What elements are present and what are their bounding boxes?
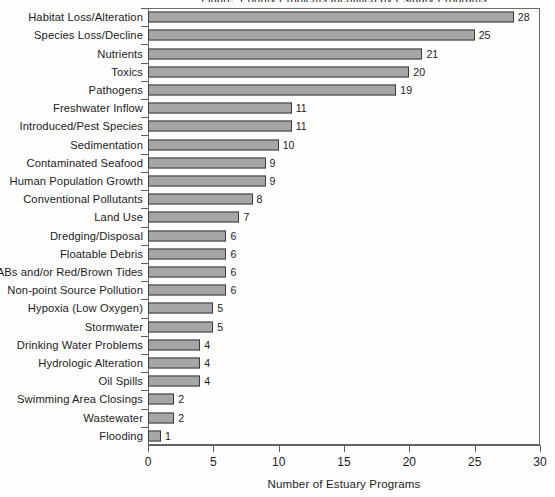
bar-row: Drinking Water Problems4	[0, 336, 555, 354]
category-label: Species Loss/Decline	[34, 29, 143, 41]
x-axis-tick	[279, 445, 280, 452]
bar	[148, 285, 226, 296]
y-axis-tick	[141, 427, 148, 428]
bar-row: Non-point Source Pollution6	[0, 281, 555, 299]
y-axis-tick	[141, 44, 148, 45]
category-label: Contaminated Seafood	[27, 157, 143, 169]
bar-value-label: 11	[296, 102, 307, 114]
x-axis-tick-label: 25	[468, 455, 481, 469]
bar	[148, 121, 292, 132]
y-axis-tick	[141, 227, 148, 228]
bar-row: Floatable Debris6	[0, 245, 555, 263]
bar-row: Land Use7	[0, 208, 555, 226]
y-axis-tick	[141, 318, 148, 319]
category-label: Conventional Pollutants	[23, 193, 143, 205]
x-axis-tick-label: 30	[533, 455, 546, 469]
y-axis-tick	[141, 390, 148, 391]
bar-value-label: 2	[178, 412, 184, 424]
bar-value-label: 20	[413, 66, 425, 78]
y-axis-tick	[141, 281, 148, 282]
category-label: Dredging/Disposal	[50, 230, 143, 242]
bar	[148, 430, 161, 441]
bar-value-label: 11	[296, 120, 307, 132]
x-axis-tick	[409, 445, 410, 452]
y-axis-tick	[141, 63, 148, 64]
y-axis-tick	[141, 336, 148, 337]
category-label: Toxics	[111, 66, 143, 78]
y-axis-tick	[141, 26, 148, 27]
category-label: Sedimentation	[70, 139, 143, 151]
bar-row: Swimming Area Closings2	[0, 390, 555, 408]
x-axis-tick	[344, 445, 345, 452]
bar	[148, 139, 279, 150]
x-axis-tick	[148, 445, 149, 452]
bar-row: Species Loss/Decline25	[0, 26, 555, 44]
category-label: Nutrients	[97, 48, 143, 60]
bar-value-label: 9	[270, 157, 276, 169]
y-axis-tick	[141, 154, 148, 155]
bar	[148, 66, 409, 77]
bar-row: Hydrologic Alteration4	[0, 354, 555, 372]
category-label: Non-point Source Pollution	[7, 284, 143, 296]
bar	[148, 157, 266, 168]
bar	[148, 376, 200, 387]
bar-row: HABs and/or Red/Brown Tides6	[0, 263, 555, 281]
bar-value-label: 9	[270, 175, 276, 187]
bar-value-label: 4	[204, 375, 210, 387]
category-label: Introduced/Pest Species	[19, 120, 143, 132]
chart-title-cropped: Figure: Priority Problems Identified by …	[148, 0, 540, 2]
bar-value-label: 25	[479, 29, 491, 41]
y-axis-tick	[141, 117, 148, 118]
bar-row: Conventional Pollutants8	[0, 190, 555, 208]
bar-value-label: 1	[165, 430, 171, 442]
bar-row: Nutrients21	[0, 44, 555, 62]
y-axis-tick	[141, 354, 148, 355]
category-label: Swimming Area Closings	[17, 393, 143, 405]
bar-row: Hypoxia (Low Oxygen)5	[0, 299, 555, 317]
bar-value-label: 7	[243, 211, 249, 223]
bar-row: Freshwater Inflow11	[0, 99, 555, 117]
bar	[148, 321, 213, 332]
category-label: Flooding	[99, 430, 143, 442]
bar	[148, 30, 475, 41]
bar-row: Human Population Growth9	[0, 172, 555, 190]
bar	[148, 358, 200, 369]
bar-rows-container: Habitat Loss/Alteration28Species Loss/De…	[0, 8, 555, 445]
bar-value-label: 10	[283, 139, 295, 151]
bar-row: Wastewater2	[0, 409, 555, 427]
category-label: Hydrologic Alteration	[38, 357, 143, 369]
bar-value-label: 2	[178, 393, 184, 405]
category-label: Oil Spills	[98, 375, 143, 387]
category-label: Floatable Debris	[60, 248, 143, 260]
y-axis-tick	[141, 263, 148, 264]
category-label: Hypoxia (Low Oxygen)	[28, 302, 143, 314]
bar-row: Pathogens19	[0, 81, 555, 99]
y-axis-tick	[141, 81, 148, 82]
bar-row: Contaminated Seafood9	[0, 154, 555, 172]
bar	[148, 194, 253, 205]
bar-row: Habitat Loss/Alteration28	[0, 8, 555, 26]
y-axis-tick	[141, 245, 148, 246]
category-label: Drinking Water Problems	[17, 339, 143, 351]
x-axis-tick	[475, 445, 476, 452]
x-axis-tick-label: 15	[337, 455, 350, 469]
bar-value-label: 6	[230, 230, 236, 242]
bar-value-label: 21	[426, 48, 438, 60]
bar-value-label: 8	[257, 193, 263, 205]
y-axis-tick	[141, 409, 148, 410]
y-axis-tick	[141, 8, 148, 9]
bar-row: Toxics20	[0, 63, 555, 81]
x-axis-tick	[213, 445, 214, 452]
x-axis-tick	[540, 445, 541, 452]
bar-value-label: 4	[204, 339, 210, 351]
y-axis-tick	[141, 135, 148, 136]
bar	[148, 103, 292, 114]
bar-value-label: 6	[230, 284, 236, 296]
category-label: Freshwater Inflow	[53, 102, 143, 114]
bar	[148, 303, 213, 314]
bar-value-label: 6	[230, 266, 236, 278]
bar	[148, 84, 396, 95]
x-axis-tick-label: 5	[210, 455, 217, 469]
category-label: Stormwater	[85, 321, 143, 333]
bar	[148, 230, 226, 241]
